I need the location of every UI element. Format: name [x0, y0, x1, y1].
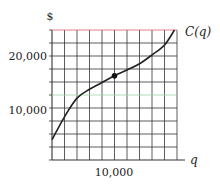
grid — [49, 30, 177, 160]
y-axis-label: $ — [47, 10, 54, 23]
x-tick-10000: 10,000 — [95, 166, 134, 179]
inflection-point-marker — [112, 73, 118, 79]
x-axis-label: q — [190, 153, 198, 167]
y-tick-20000: 20,000 — [9, 50, 48, 63]
cost-function-chart: $ C(q) q 20,000 10,000 10,000 — [0, 0, 220, 187]
curve-label: C(q) — [185, 25, 212, 39]
y-tick-10000: 10,000 — [9, 104, 48, 117]
cost-curve — [52, 30, 175, 140]
